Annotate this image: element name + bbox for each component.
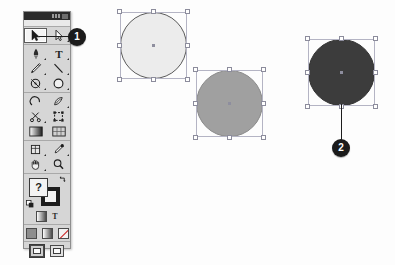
- tool-group-navigation: [24, 141, 70, 174]
- tool-slice[interactable]: [24, 142, 47, 157]
- close-icon[interactable]: [62, 14, 68, 19]
- resize-handle-e[interactable]: [185, 43, 190, 48]
- zoom-magnifier-icon: [52, 158, 65, 171]
- tool-free-transform[interactable]: [47, 109, 70, 124]
- swap-fill-stroke-icon[interactable]: [59, 176, 66, 183]
- tool-group-drawing: T: [24, 45, 70, 93]
- gradient-icon: [29, 126, 43, 137]
- tool-group-transform: [24, 93, 70, 141]
- resize-handle-ne[interactable]: [261, 67, 266, 72]
- fill-swatch[interactable]: ?: [29, 178, 48, 197]
- callout-2: 2: [332, 139, 350, 157]
- tool-rotate[interactable]: [24, 76, 47, 91]
- shape-center-point: [228, 102, 231, 105]
- tool-pencil[interactable]: [24, 61, 47, 76]
- gradient-swatch-button[interactable]: [36, 211, 47, 222]
- hand-icon: [29, 158, 42, 171]
- tool-row: [24, 142, 70, 157]
- rotate-icon: [29, 77, 42, 90]
- selected-shape-circle-dark[interactable]: [308, 39, 375, 106]
- flyout-triangle-icon: [44, 121, 46, 123]
- screen-mode-group: [24, 242, 70, 260]
- resize-handle-sw[interactable]: [305, 104, 310, 109]
- paint-mode-group: [24, 225, 70, 242]
- tool-scissors[interactable]: [24, 109, 47, 124]
- screen-mode-row: [24, 243, 70, 259]
- callout-1-number: 1: [74, 32, 80, 42]
- warp-icon: [52, 95, 65, 108]
- color-button[interactable]: [26, 228, 37, 239]
- fill-stroke-block[interactable]: ?: [24, 175, 70, 209]
- resize-handle-sw[interactable]: [193, 135, 198, 140]
- flyout-triangle-icon: [67, 106, 69, 108]
- shape-center-point: [340, 71, 343, 74]
- tool-row: [24, 157, 70, 172]
- type-icon: T: [53, 48, 65, 60]
- tool-gradient[interactable]: [24, 124, 47, 139]
- tool-row: [24, 124, 70, 139]
- flyout-triangle-icon: [44, 58, 46, 60]
- tool-ellipse[interactable]: [47, 76, 70, 91]
- resize-handle-nw[interactable]: [117, 9, 122, 14]
- tools-panel-subbar: [24, 20, 70, 27]
- shape-center-point: [152, 44, 155, 47]
- ellipse-icon: [52, 77, 65, 90]
- tool-pen[interactable]: [24, 46, 47, 61]
- fill-swatch-label: ?: [35, 182, 42, 193]
- flyout-triangle-icon: [67, 58, 69, 60]
- tool-line-segment[interactable]: [47, 61, 70, 76]
- resize-handle-n[interactable]: [227, 67, 232, 72]
- eyedropper-icon: [52, 143, 65, 156]
- illustrator-canvas: T: [0, 0, 395, 265]
- resize-handle-w[interactable]: [117, 43, 122, 48]
- tools-panel-titlebar[interactable]: [24, 12, 70, 20]
- tool-row: [24, 109, 70, 124]
- tool-row: [24, 76, 70, 91]
- none-button[interactable]: [58, 228, 69, 239]
- resize-handle-ne[interactable]: [185, 9, 190, 14]
- flyout-triangle-icon: [44, 73, 46, 75]
- flyout-triangle-icon: [67, 88, 69, 90]
- reshape-arc-icon: [29, 95, 42, 108]
- resize-handle-sw[interactable]: [117, 77, 122, 82]
- paint-mode-row: [24, 226, 70, 240]
- tools-panel[interactable]: T: [23, 11, 71, 249]
- standard-screen-mode-button[interactable]: [30, 245, 44, 257]
- resize-handle-nw[interactable]: [305, 36, 310, 41]
- resize-handle-e[interactable]: [261, 101, 266, 106]
- pencil-icon: [29, 62, 42, 75]
- full-screen-mode-button[interactable]: [50, 245, 64, 257]
- resize-handle-e[interactable]: [373, 70, 378, 75]
- selected-shape-circle-light[interactable]: [120, 12, 187, 79]
- tool-type[interactable]: T: [47, 46, 70, 61]
- type-swatch-button[interactable]: T: [52, 212, 57, 221]
- resize-handle-w[interactable]: [193, 101, 198, 106]
- flyout-triangle-icon: [44, 169, 46, 171]
- selected-shape-circle-medium[interactable]: [196, 70, 263, 137]
- resize-handle-n[interactable]: [339, 36, 344, 41]
- resize-handle-se[interactable]: [185, 77, 190, 82]
- default-fill-stroke-icon[interactable]: [26, 200, 34, 208]
- tool-row: T: [24, 46, 70, 61]
- tool-warp[interactable]: [47, 94, 70, 109]
- resize-handle-s[interactable]: [227, 135, 232, 140]
- resize-handle-w[interactable]: [305, 70, 310, 75]
- tool-row: [24, 94, 70, 109]
- pen-icon: [30, 48, 42, 60]
- flyout-triangle-icon: [67, 154, 69, 156]
- resize-handle-s[interactable]: [151, 77, 156, 82]
- resize-handle-nw[interactable]: [193, 67, 198, 72]
- tool-zoom[interactable]: [47, 157, 70, 172]
- callout-1-leader-line: [39, 36, 69, 37]
- tool-eyedropper[interactable]: [47, 142, 70, 157]
- tool-hand[interactable]: [24, 157, 47, 172]
- gradient-button[interactable]: [42, 228, 53, 239]
- tool-mesh[interactable]: [47, 124, 70, 139]
- tool-reshape[interactable]: [24, 94, 47, 109]
- resize-handle-se[interactable]: [261, 135, 266, 140]
- resize-handle-n[interactable]: [151, 9, 156, 14]
- resize-handle-ne[interactable]: [373, 36, 378, 41]
- resize-handle-se[interactable]: [373, 104, 378, 109]
- free-transform-icon: [52, 110, 65, 123]
- mesh-icon: [52, 126, 66, 137]
